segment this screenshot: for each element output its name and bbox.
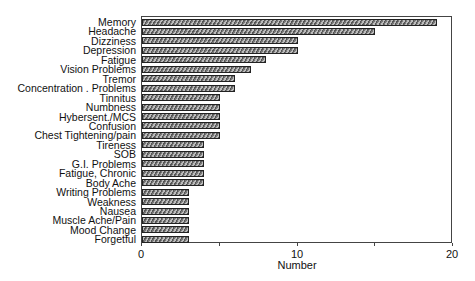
x-tick-mark (297, 243, 298, 246)
bar (142, 132, 220, 139)
bar (142, 122, 220, 129)
bar (142, 56, 266, 63)
bar (142, 208, 189, 215)
category-label: Forgetful (95, 234, 136, 244)
bar (142, 85, 235, 92)
bar (142, 236, 189, 243)
bar (142, 28, 375, 35)
bar (142, 141, 204, 148)
horizontal-bar-chart: MemoryHeadacheDizzinessDepressionFatigue… (0, 0, 475, 281)
x-tick-mark (141, 243, 142, 246)
bar (142, 226, 189, 233)
bar (142, 160, 204, 167)
bar (142, 104, 220, 111)
bar (142, 66, 251, 73)
bar (142, 75, 235, 82)
x-axis-title: Number (277, 259, 316, 271)
x-tick-label-20: 20 (446, 248, 458, 260)
bar (142, 217, 189, 224)
bar (142, 47, 298, 54)
bar (142, 170, 204, 177)
bar (142, 37, 298, 44)
x-tick-mark (374, 243, 375, 246)
bar (142, 113, 220, 120)
bar (142, 179, 204, 186)
x-tick-mark (452, 243, 453, 246)
bar (142, 198, 189, 205)
bar (142, 189, 189, 196)
x-tick-label-0: 0 (138, 248, 144, 260)
x-tick-mark (219, 243, 220, 246)
bar (142, 19, 437, 26)
bar (142, 151, 204, 158)
bar (142, 94, 220, 101)
